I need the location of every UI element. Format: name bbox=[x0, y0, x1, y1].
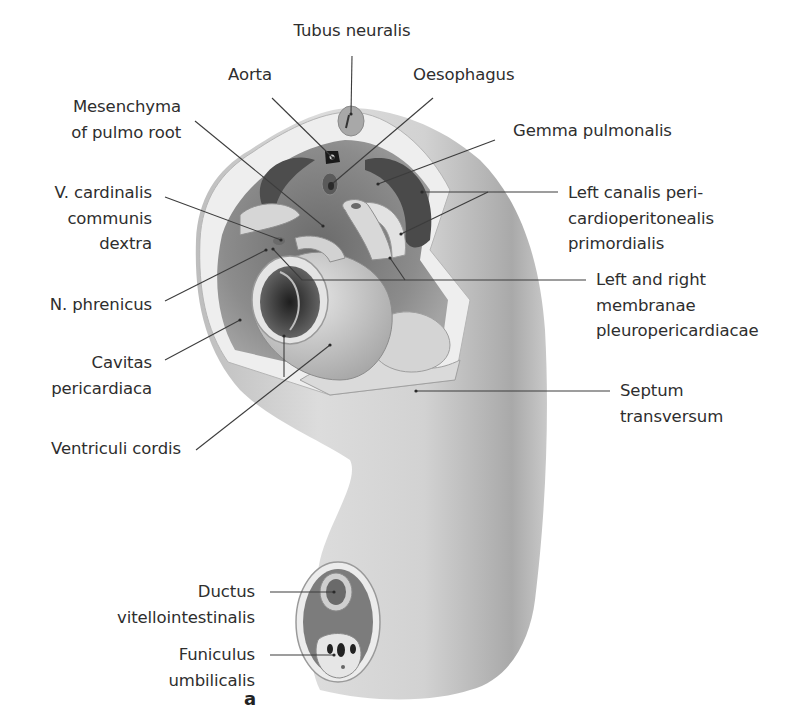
label-oesophagus: Oesophagus bbox=[413, 62, 514, 88]
leader-tubus-neuralis bbox=[351, 56, 352, 114]
label-v-cardinalis-communis-dextra: V. cardinalis communis dextra bbox=[55, 180, 152, 257]
label-cavitas-pericardiaca: Cavitas pericardiaca bbox=[51, 350, 152, 401]
label-aorta: Aorta bbox=[220, 62, 280, 88]
label-septum-transversum: Septum transversum bbox=[620, 378, 723, 429]
embryo-cross-section-figure: Tubus neuralis Aorta Oesophagus Mesenchy… bbox=[0, 0, 795, 709]
label-ductus-vitellointestinalis: Ductus vitellointestinalis bbox=[117, 579, 255, 630]
label-ventriculi-cordis: Ventriculi cordis bbox=[51, 436, 181, 462]
label-left-canalis-pericardioperitonealis: Left canalis peri- cardioperitonealis pr… bbox=[568, 180, 714, 257]
label-funiculus-umbilicalis: Funiculus umbilicalis bbox=[168, 642, 255, 693]
label-tubus-neuralis: Tubus neuralis bbox=[292, 18, 412, 44]
label-mesenchyma-pulmo-root: Mesenchyma of pulmo root bbox=[71, 94, 181, 145]
panel-letter: a bbox=[244, 688, 256, 709]
label-gemma-pulmonalis: Gemma pulmonalis bbox=[513, 118, 672, 144]
label-membranae-pleuropericardiacae: Left and right membranae pleuropericardi… bbox=[596, 267, 758, 344]
label-n-phrenicus: N. phrenicus bbox=[50, 292, 152, 318]
umbilical-cord-section bbox=[296, 562, 380, 682]
